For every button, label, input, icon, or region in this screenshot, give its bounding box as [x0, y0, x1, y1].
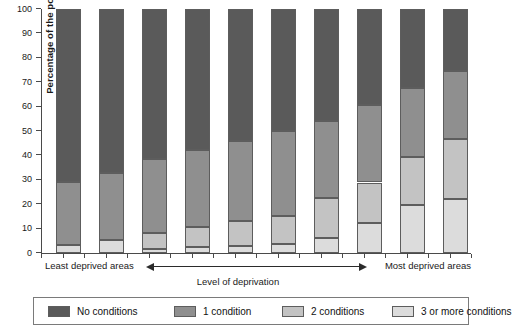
bar-segment: [400, 205, 425, 253]
least-deprived-label: Least deprived areas: [45, 258, 134, 274]
chart-legend: No conditions1 condition2 conditions3 or…: [33, 297, 469, 325]
legend-swatch: [282, 306, 304, 317]
legend-label: 3 or more conditions: [421, 306, 512, 317]
bar-column: [271, 9, 296, 253]
y-tick-label: 80: [22, 52, 32, 62]
bar-segment: [443, 9, 468, 71]
legend-swatch: [174, 306, 196, 317]
legend-swatch: [392, 306, 414, 317]
legend-item: 3 or more conditions: [392, 306, 512, 317]
bar-segment: [314, 121, 339, 198]
bar-segment: [357, 9, 382, 105]
bar-segment: [142, 159, 167, 233]
bar-column: [99, 9, 124, 253]
y-tick-label: 20: [22, 199, 32, 209]
bar-segment: [271, 131, 296, 216]
bar-segment: [357, 105, 382, 183]
y-tick-label: 0: [27, 248, 32, 258]
bar-segment: [142, 249, 167, 253]
bar-segment: [443, 139, 468, 199]
legend-item: 2 conditions: [282, 306, 364, 317]
y-tick-label: 90: [22, 28, 32, 38]
bar-segment: [185, 150, 210, 228]
bar-segment: [271, 244, 296, 253]
bar-segment: [314, 238, 339, 253]
bar-segment: [99, 240, 124, 253]
bar-segment: [228, 9, 253, 141]
bar-segment: [271, 216, 296, 244]
deprivation-axis-annotation: Least deprived areas Most deprived areas: [41, 258, 471, 276]
bar-segment: [142, 9, 167, 159]
legend-label: 1 condition: [203, 306, 251, 317]
legend-item: 1 condition: [174, 306, 251, 317]
bar-segment: [185, 247, 210, 253]
bar-segment: [271, 9, 296, 131]
bar-segment: [99, 173, 124, 240]
y-tick-label: 40: [22, 150, 32, 160]
bar-segment: [400, 88, 425, 157]
bar-column: [314, 9, 339, 253]
bar-column: [443, 9, 468, 253]
bar-segment: [400, 157, 425, 206]
bar-segment: [357, 223, 382, 253]
bars-layer: [41, 9, 471, 254]
bar-segment: [443, 71, 468, 139]
y-tick-label: 10: [22, 223, 32, 233]
bar-column: [185, 9, 210, 253]
x-axis-title: Level of deprivation: [0, 276, 476, 287]
legend-label: No conditions: [77, 306, 138, 317]
legend-label: 2 conditions: [311, 306, 364, 317]
bar-segment: [185, 227, 210, 247]
bar-segment: [142, 233, 167, 249]
legend-swatch: [48, 306, 70, 317]
plot-area: 0102030405060708090100: [41, 9, 471, 254]
bar-segment: [228, 221, 253, 247]
bar-segment: [99, 9, 124, 173]
legend-item: No conditions: [48, 306, 138, 317]
bar-column: [357, 9, 382, 253]
most-deprived-label: Most deprived areas: [385, 258, 471, 274]
bar-segment: [443, 199, 468, 253]
y-tick-label: 60: [22, 101, 32, 111]
bar-segment: [185, 9, 210, 150]
bar-segment: [314, 9, 339, 121]
arrow-line: [153, 266, 360, 267]
y-tick-label: 100: [17, 4, 32, 14]
deprivation-arrow: [146, 266, 367, 268]
bar-segment: [228, 246, 253, 253]
bar-segment: [400, 9, 425, 88]
y-tick-label: 30: [22, 174, 32, 184]
bar-column: [56, 9, 81, 253]
bar-column: [228, 9, 253, 253]
bar-segment: [314, 198, 339, 238]
bar-segment: [56, 182, 81, 245]
y-tick-label: 50: [22, 126, 32, 136]
arrow-right-head-icon: [359, 263, 367, 271]
y-tick-label: 70: [22, 77, 32, 87]
x-tick: [471, 254, 472, 258]
bar-column: [142, 9, 167, 253]
bar-segment: [56, 245, 81, 253]
bar-segment: [56, 9, 81, 182]
bar-column: [400, 9, 425, 253]
bar-segment: [228, 141, 253, 221]
bar-segment: [357, 183, 382, 224]
